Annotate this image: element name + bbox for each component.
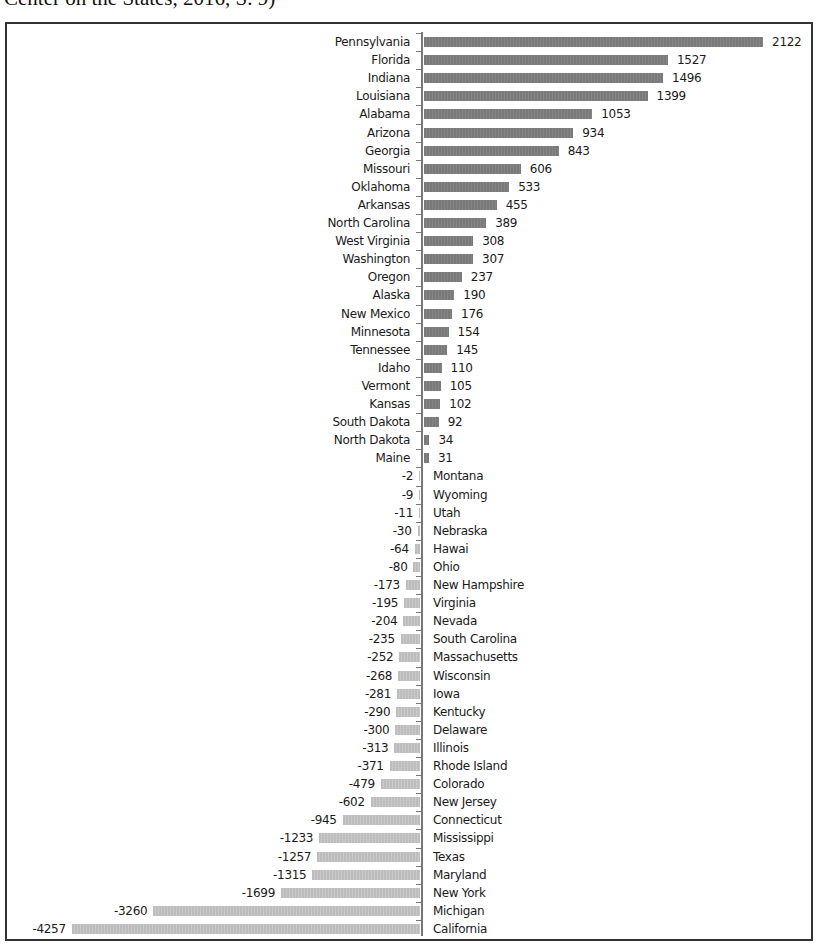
category-label: Utah <box>433 504 460 522</box>
category-label: Wisconsin <box>433 667 490 685</box>
axis-tick <box>416 268 421 269</box>
positive-bar <box>424 453 429 463</box>
axis-tick <box>416 232 421 233</box>
category-label: Illinois <box>433 739 469 757</box>
bar-row: California-4257 <box>0 920 823 938</box>
bar-row: New Mexico176 <box>0 305 823 323</box>
negative-bar <box>418 526 420 536</box>
bar-row: Wisconsin-268 <box>0 667 823 685</box>
axis-tick <box>416 87 421 88</box>
axis-tick <box>416 522 421 523</box>
negative-bar <box>72 924 420 934</box>
bar-row: Kansas102 <box>0 395 823 413</box>
positive-bar <box>424 128 573 138</box>
axis-tick <box>416 486 421 487</box>
axis-tick <box>416 721 421 722</box>
category-label: North Carolina <box>327 214 410 232</box>
category-label: Nevada <box>433 612 477 630</box>
category-label: New Hampshire <box>433 576 524 594</box>
bar-row: Indiana1496 <box>0 69 823 87</box>
negative-bar <box>401 634 420 644</box>
value-label: -1233 <box>280 829 313 847</box>
category-label: Connecticut <box>433 811 502 829</box>
bar-row: Michigan-3260 <box>0 902 823 920</box>
negative-bar <box>399 652 420 662</box>
axis-tick <box>416 341 421 342</box>
axis-tick <box>416 793 421 794</box>
value-label: -30 <box>393 522 412 540</box>
bar-row: Nevada-204 <box>0 612 823 630</box>
bar-row: Oregon237 <box>0 268 823 286</box>
positive-bar <box>424 399 440 409</box>
value-label: -11 <box>394 504 413 522</box>
value-label: -281 <box>365 685 391 703</box>
category-label: Oregon <box>368 268 410 286</box>
axis-tick <box>416 558 421 559</box>
positive-bar <box>424 417 439 427</box>
axis-tick <box>416 196 421 197</box>
bar-row: New York-1699 <box>0 884 823 902</box>
axis-tick <box>416 540 421 541</box>
axis-tick <box>416 449 421 450</box>
category-label: South Dakota <box>332 413 410 431</box>
value-label: -479 <box>349 775 375 793</box>
positive-bar <box>424 73 663 83</box>
positive-bar <box>424 182 509 192</box>
value-label: 34 <box>438 431 453 449</box>
bar-row: Idaho110 <box>0 359 823 377</box>
bar-row: Illinois-313 <box>0 739 823 757</box>
negative-bar <box>396 707 420 717</box>
negative-bar <box>371 797 420 807</box>
axis-tick <box>416 866 421 867</box>
bar-row: Colorado-479 <box>0 775 823 793</box>
category-label: Virginia <box>433 594 476 612</box>
bar-row: New Hampshire-173 <box>0 576 823 594</box>
axis-tick <box>416 829 421 830</box>
bar-row: Hawai-64 <box>0 540 823 558</box>
axis-tick <box>416 33 421 34</box>
bar-row: Pennsylvania2122 <box>0 33 823 51</box>
positive-bar <box>424 345 447 355</box>
axis-tick <box>416 467 421 468</box>
value-label: 31 <box>438 449 453 467</box>
positive-bar <box>424 55 668 65</box>
bar-row: Georgia843 <box>0 142 823 160</box>
axis-tick <box>416 160 421 161</box>
negative-bar <box>397 689 420 699</box>
negative-bar <box>153 906 420 916</box>
axis-tick <box>416 105 421 106</box>
category-label: South Carolina <box>433 630 517 648</box>
positive-bar <box>424 164 521 174</box>
positive-bar <box>424 254 473 264</box>
negative-bar <box>406 580 420 590</box>
axis-tick <box>416 667 421 668</box>
category-label: Indiana <box>368 69 410 87</box>
axis-tick <box>416 739 421 740</box>
axis-tick <box>416 250 421 251</box>
axis-tick <box>416 757 421 758</box>
category-label: Arizona <box>367 124 410 142</box>
category-label: Michigan <box>433 902 484 920</box>
category-label: New Jersey <box>433 793 497 811</box>
negative-bar <box>415 544 420 554</box>
value-label: 843 <box>568 142 590 160</box>
positive-bar <box>424 37 763 47</box>
axis-tick <box>416 377 421 378</box>
axis-tick <box>416 775 421 776</box>
negative-bar <box>390 761 420 771</box>
axis-tick <box>416 703 421 704</box>
category-label: Oklahoma <box>351 178 410 196</box>
axis-tick <box>416 413 421 414</box>
bar-row: Washington307 <box>0 250 823 268</box>
negative-bar <box>403 616 420 626</box>
value-label: 110 <box>451 359 473 377</box>
negative-bar <box>395 725 420 735</box>
positive-bar <box>424 272 462 282</box>
bar-row: Nebraska-30 <box>0 522 823 540</box>
positive-bar <box>424 218 486 228</box>
value-label: 102 <box>449 395 471 413</box>
axis-tick <box>416 612 421 613</box>
axis-tick <box>416 178 421 179</box>
category-label: New York <box>433 884 486 902</box>
value-label: -371 <box>358 757 384 775</box>
